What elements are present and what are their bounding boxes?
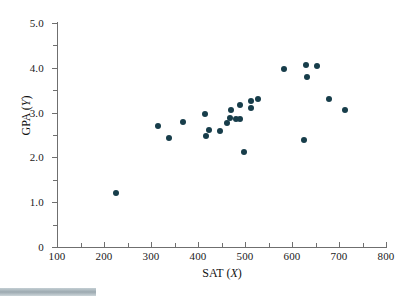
data-point xyxy=(227,115,233,121)
x-tick-label-400: 400 xyxy=(178,250,218,262)
y-axis-variable: Y xyxy=(19,100,33,107)
x-tick-label-300: 300 xyxy=(131,250,171,262)
data-point xyxy=(113,190,119,196)
x-axis-title: SAT (X) xyxy=(57,266,387,281)
scatter-plot-figure: 01.02.03.04.05.0 10020030040050060070080… xyxy=(0,0,411,298)
data-point xyxy=(237,102,243,108)
data-point xyxy=(326,96,332,102)
x-tick-label-700: 700 xyxy=(319,250,359,262)
data-point xyxy=(255,96,261,102)
x-tick-800 xyxy=(386,242,387,248)
x-tick-label-600: 600 xyxy=(272,250,312,262)
y-tick-label-1.0: 1.0 xyxy=(0,197,44,208)
x-tick-label-800: 800 xyxy=(366,250,406,262)
data-point xyxy=(304,74,310,80)
plot-area xyxy=(57,23,386,247)
x-axis-variable: X xyxy=(230,266,237,280)
x-tick-label-500: 500 xyxy=(225,250,265,262)
data-point xyxy=(166,135,172,141)
data-point xyxy=(314,63,320,69)
data-point xyxy=(217,128,223,134)
data-point xyxy=(180,119,186,125)
data-point xyxy=(206,127,212,133)
data-point xyxy=(203,133,209,139)
x-tick-label-100: 100 xyxy=(37,250,77,262)
data-point xyxy=(202,111,208,117)
y-axis-title: GPA (Y) xyxy=(19,56,34,176)
y-tick-label-5.0: 5.0 xyxy=(0,18,44,29)
data-point xyxy=(301,137,307,143)
bottom-caption-strip xyxy=(0,288,96,296)
x-tick-label-200: 200 xyxy=(84,250,124,262)
